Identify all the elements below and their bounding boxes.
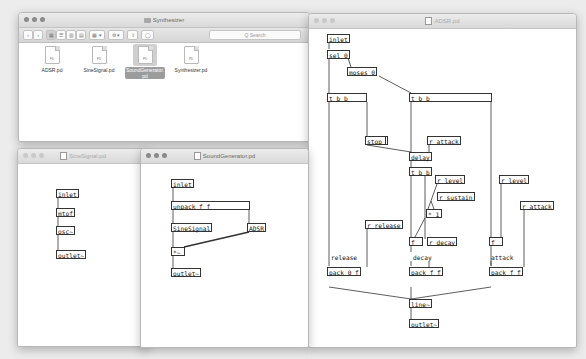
finder-window[interactable]: Synthesizer ‹ › ▦ ☰ ▥ ▤ ▦ ▾ ⚙ ▾ ⇪ ◯ Q Se… [18, 12, 310, 142]
zoom-button[interactable] [330, 18, 335, 23]
close-button[interactable] [23, 153, 28, 158]
view-gallery-button[interactable]: ▤ [76, 30, 86, 40]
pd-object-signal-multiply[interactable]: *~ [171, 247, 185, 256]
share-button[interactable]: ⇪ [127, 30, 138, 40]
file-sinesignal[interactable]: PD SineSignal.pd [77, 46, 121, 73]
comment-decay: decay [413, 254, 432, 261]
document-icon [60, 152, 67, 160]
minimize-button[interactable] [32, 17, 37, 22]
tags-button[interactable]: ◯ [141, 30, 154, 40]
adsr-title: ADSR.pd [434, 18, 459, 24]
file-name: Synthesizer.pd [169, 67, 213, 73]
view-list-button[interactable]: ☰ [56, 30, 66, 40]
back-button[interactable]: ‹ [23, 30, 33, 40]
pd-object-moses[interactable]: moses 0 [347, 67, 377, 76]
pd-object-pack-release[interactable]: pack 0 f [327, 267, 361, 276]
pd-object-osc[interactable]: osc~ [56, 226, 75, 235]
soundgenerator-title: SoundGenerator.pd [203, 153, 255, 159]
view-columns-button[interactable]: ▥ [66, 30, 76, 40]
adsr-patch-canvas[interactable]: inlet sel 0 moses 0 t b b t b b stop r a… [309, 29, 576, 347]
pd-object-delay[interactable]: delay [409, 152, 432, 161]
pd-file-icon: PD [92, 46, 107, 64]
file-synthesizer[interactable]: PD Synthesizer.pd [169, 46, 213, 73]
forward-button[interactable]: › [33, 30, 43, 40]
patch-cords [141, 164, 308, 348]
file-adsr[interactable]: PD ADSR.pd [30, 46, 74, 73]
pd-object-outlet[interactable]: outlet~ [56, 250, 86, 259]
file-name: ADSR.pd [30, 67, 74, 73]
adsr-titlebar[interactable]: ADSR.pd [309, 14, 576, 29]
comment-release: release [331, 254, 357, 261]
pd-object-outlet[interactable]: outlet~ [171, 268, 201, 277]
soundgenerator-patch-canvas[interactable]: inlet unpack f f SineSignal ADSR *~ outl… [141, 164, 308, 347]
folder-icon [144, 18, 151, 23]
close-button[interactable] [314, 18, 319, 23]
sinesignal-title: SineSignal.pd [69, 153, 106, 159]
zoom-button[interactable] [39, 153, 44, 158]
pd-message-stop[interactable]: stop [365, 136, 388, 145]
finder-titlebar[interactable]: Synthesizer [19, 13, 309, 28]
pd-object-r-level-1[interactable]: r level [435, 175, 465, 184]
file-name-ext: pd [142, 73, 148, 79]
close-button[interactable] [24, 17, 29, 22]
sinesignal-patch-canvas[interactable]: inlet mtof osc~ outlet~ [18, 164, 148, 346]
document-icon [194, 152, 201, 160]
search-input[interactable]: Q Search [209, 30, 301, 40]
pd-object-trigger-left[interactable]: t b b [327, 93, 367, 102]
document-icon [425, 17, 432, 25]
sinesignal-window[interactable]: SineSignal.pd inlet mtof osc~ outlet~ [17, 148, 149, 347]
zoom-button[interactable] [40, 17, 45, 22]
zoom-button[interactable] [162, 153, 167, 158]
pd-object-r-sustain[interactable]: r sustain [437, 192, 475, 201]
pd-object-float-decay[interactable]: f [409, 237, 423, 246]
adsr-window[interactable]: ADSR.pd [308, 13, 577, 348]
pd-object-multiply[interactable]: * 1 [426, 209, 442, 218]
pd-object-sinesignal[interactable]: SineSignal [171, 223, 212, 232]
pd-object-inlet[interactable]: inlet [327, 34, 350, 43]
window-controls [146, 153, 167, 158]
pd-object-trigger-right[interactable]: t b b [409, 93, 492, 102]
close-button[interactable] [146, 153, 151, 158]
pd-object-r-level-2[interactable]: r level [499, 175, 529, 184]
soundgenerator-titlebar[interactable]: SoundGenerator.pd [141, 149, 308, 164]
pd-object-r-release[interactable]: r release [365, 220, 403, 229]
pd-file-icon: PD [45, 46, 60, 64]
finder-title: Synthesizer [153, 17, 184, 23]
pd-object-inlet[interactable]: inlet [171, 179, 194, 188]
pd-file-icon: PD [184, 46, 199, 64]
comment-attack: attack [491, 254, 513, 261]
window-controls [314, 18, 335, 23]
pd-object-inlet[interactable]: inlet [56, 189, 79, 198]
action-gear-button[interactable]: ⚙ ▾ [108, 30, 124, 40]
pd-object-adsr[interactable]: ADSR [247, 223, 266, 232]
pd-object-trigger-mid[interactable]: t b b [409, 167, 432, 176]
minimize-button[interactable] [322, 18, 327, 23]
arrange-button[interactable]: ▦ ▾ [89, 30, 105, 40]
pd-object-pack-attack[interactable]: pack f f [489, 267, 523, 276]
view-icons-button[interactable]: ▦ [46, 30, 56, 40]
pd-file-icon: PD [138, 46, 153, 64]
pd-object-outlet[interactable]: outlet~ [409, 319, 439, 328]
minimize-button[interactable] [31, 153, 36, 158]
window-controls [23, 153, 44, 158]
pd-object-line[interactable]: line~ [409, 299, 432, 308]
pd-object-r-attack-1[interactable]: r attack [427, 136, 461, 145]
pd-object-sel[interactable]: sel 0 [327, 50, 350, 59]
pd-object-pack-decay[interactable]: pack f f [409, 267, 443, 276]
file-soundgenerator[interactable]: PD SoundGenerator.pd [123, 44, 167, 79]
pd-object-unpack[interactable]: unpack f f [171, 201, 250, 210]
minimize-button[interactable] [154, 153, 159, 158]
soundgenerator-window[interactable]: SoundGenerator.pd inlet unpack f f SineS… [140, 148, 309, 348]
window-controls [24, 17, 45, 22]
sinesignal-titlebar[interactable]: SineSignal.pd [18, 149, 148, 164]
selection-highlight: PD [133, 44, 157, 66]
pd-object-r-attack-2[interactable]: r attack [520, 201, 554, 210]
pd-object-r-decay[interactable]: r decay [427, 237, 457, 246]
pd-object-float-attack[interactable]: f [489, 237, 503, 246]
file-name: SineSignal.pd [77, 67, 121, 73]
pd-object-mtof[interactable]: mtof [56, 208, 75, 217]
